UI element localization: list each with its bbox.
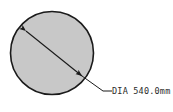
circle-shape: [11, 12, 94, 95]
drawing-svg: DIA 540.0mm: [0, 0, 173, 112]
diameter-label: DIA 540.0mm: [112, 86, 171, 96]
leader-line: [82, 76, 112, 91]
engineering-drawing-canvas: DIA 540.0mm: [0, 0, 173, 112]
